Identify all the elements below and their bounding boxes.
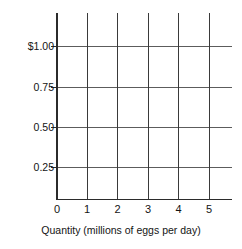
y-tick-label-0.75: 0.75: [34, 82, 54, 93]
gridline-horizontal-1.00: [56, 46, 232, 47]
gridline-vertical-5: [209, 13, 210, 199]
price-quantity-grid-chart: $1.00 0.75 0.50 0.25 0 1 2 3 4 5 Price (…: [0, 0, 242, 249]
x-tick-label-0: 0: [47, 203, 67, 215]
gridline-horizontal-0.75: [56, 87, 232, 88]
x-tick-label-4: 4: [169, 203, 189, 215]
x-axis-line: [56, 199, 232, 201]
x-tick-label-5: 5: [199, 203, 219, 215]
gridline-vertical-2: [117, 13, 118, 199]
x-tick-label-1: 1: [77, 203, 97, 215]
gridline-vertical-1: [87, 13, 88, 199]
gridline-horizontal-0.25: [56, 167, 232, 168]
y-tick-label-0.50: 0.50: [34, 122, 54, 133]
x-tick-label-2: 2: [108, 203, 128, 215]
x-axis-title: Quantity (millions of eggs per day): [0, 224, 242, 236]
gridline-vertical-3: [148, 13, 149, 199]
y-axis-line: [56, 13, 58, 200]
gridline-vertical-4: [178, 13, 179, 199]
gridline-horizontal-0.50: [56, 127, 232, 128]
y-tick-label-0.25: 0.25: [34, 162, 54, 173]
y-tick-label-1.00: $1.00: [28, 41, 54, 52]
x-tick-label-3: 3: [138, 203, 158, 215]
